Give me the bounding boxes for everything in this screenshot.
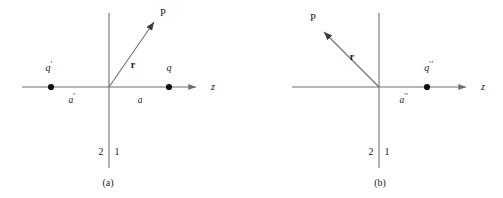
region-label-2: 2 (99, 147, 104, 157)
charge-dot-q-double-prime (424, 84, 430, 90)
z-axis-label: z (481, 82, 485, 93)
panel-caption-a: (a) (102, 178, 113, 188)
field-point-label-P: P (310, 13, 316, 24)
distance-label-a-prime: a′ (69, 93, 76, 106)
vector-label-r: r (350, 52, 354, 62)
z-axis-label: z (211, 82, 215, 93)
diagram-panel-a: P r q′ q a′ a 2 1 z (a) (0, 0, 251, 198)
field-point-label-P: P (160, 8, 166, 19)
panel-caption-b: (b) (374, 178, 386, 188)
position-vector-arrow (109, 22, 154, 87)
region-label-2: 2 (369, 147, 374, 157)
vector-label-r: r (131, 60, 135, 70)
region-label-1: 1 (115, 147, 120, 157)
charge-label-q-prime: q′ (45, 61, 52, 73)
panel-b-axes-and-vector (252, 0, 503, 198)
charge-dot-q (166, 84, 172, 90)
diagram-panel-b: P r q′′ a′′ 2 1 z (b) (252, 0, 503, 198)
distance-label-a-double-prime: a′′ (399, 93, 408, 106)
charge-label-q-double-prime: q′′ (424, 61, 433, 73)
region-label-1: 1 (385, 147, 390, 157)
distance-label-a: a (138, 93, 143, 106)
figure-canvas: P r q′ q a′ a 2 1 z (a) (0, 0, 503, 198)
charge-dot-q-prime (48, 84, 54, 90)
charge-label-q: q (167, 61, 172, 73)
panel-a-axes-and-vector (0, 0, 251, 198)
